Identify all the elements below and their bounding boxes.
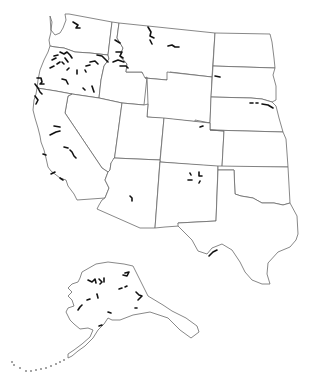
state-montana	[117, 23, 215, 80]
new-mexico-segment-2	[190, 173, 191, 175]
aleutian-dot	[55, 363, 57, 365]
california-segment-2	[54, 126, 60, 127]
oregon-segment-8	[86, 65, 90, 66]
aleutian-dot	[11, 361, 13, 363]
texas-rio-grande-segment	[209, 250, 217, 256]
aleutian-dot	[30, 370, 32, 372]
alaska-segment-13	[99, 325, 102, 326]
alaska-segment-6	[125, 286, 127, 287]
aleutian-dot	[35, 369, 37, 371]
aleutian-dot	[59, 361, 61, 363]
colorado-segment	[200, 126, 203, 127]
aleutian-dot	[40, 368, 42, 370]
alaska-segment-12	[108, 312, 111, 313]
aleutian-dot	[50, 365, 52, 367]
aleutian-dot	[45, 367, 47, 369]
new-mexico-segment-4	[199, 181, 200, 183]
oregon-segment-13	[85, 70, 86, 72]
alaska-segment-8	[87, 299, 90, 300]
state-wyoming	[145, 72, 212, 123]
aleutian-dot	[25, 370, 27, 372]
state-north-dakota	[213, 33, 275, 68]
western-us-map	[0, 0, 325, 386]
state-boundaries	[33, 14, 298, 358]
alaska-segment-7	[97, 294, 98, 298]
state-alaska	[66, 262, 199, 358]
california-segment-6	[43, 154, 46, 155]
montana-segment-4	[215, 76, 220, 77]
alaska-segment-5	[119, 288, 122, 289]
state-new-mexico	[155, 162, 218, 228]
aleutian-dot	[19, 367, 21, 369]
aleutian-dot	[63, 359, 65, 361]
state-south-dakota	[211, 66, 276, 102]
california-segment-4	[64, 147, 68, 148]
aleutian-islands	[11, 359, 65, 372]
oregon-segment-3	[54, 55, 58, 56]
aleutian-dot	[13, 364, 15, 366]
